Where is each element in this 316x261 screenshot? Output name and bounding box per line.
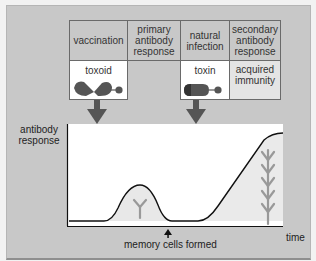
diagram-graphics — [0, 0, 316, 261]
down-arrow-icon — [87, 100, 107, 124]
up-arrow-icon — [164, 229, 172, 238]
down-arrow-icon — [186, 100, 206, 124]
toxoid-molecule-icon — [74, 82, 123, 96]
toxin-molecule-icon — [184, 84, 222, 96]
